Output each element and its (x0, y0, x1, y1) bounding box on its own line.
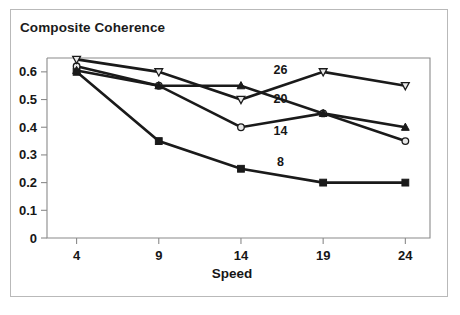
x-tick-label: 19 (316, 248, 330, 263)
data-point-marker (237, 96, 245, 103)
y-axis-tick-labels: 00.10.20.30.40.50.6 (19, 64, 38, 245)
data-point-marker (402, 138, 409, 145)
x-tick-label: 14 (234, 248, 249, 263)
data-point-marker (155, 138, 162, 145)
data-point-marker (238, 124, 245, 131)
series-label-8: 8 (277, 155, 284, 169)
x-tick-label: 24 (398, 248, 413, 263)
x-axis-title: Speed (212, 266, 253, 281)
series-annotations: 8142026 (273, 63, 287, 169)
x-tick-label: 4 (73, 248, 81, 263)
y-tick-label: 0.5 (19, 92, 37, 107)
y-tick-label: 0.6 (19, 64, 37, 79)
series-label-26: 26 (273, 63, 287, 77)
data-point-marker (320, 179, 327, 186)
x-axis-tick-labels: 49141924 (73, 248, 413, 263)
data-point-marker (402, 179, 409, 186)
series-label-14: 14 (273, 124, 287, 138)
y-tick-label: 0.3 (19, 147, 37, 162)
y-tick-label: 0.4 (19, 120, 38, 135)
line-chart-plot: 00.10.20.30.40.50.6 49141924 8142026 Spe… (0, 0, 460, 315)
series-label-20: 20 (273, 92, 287, 106)
data-point-marker (238, 165, 245, 172)
y-tick-label: 0 (30, 231, 37, 246)
y-tick-label: 0.1 (19, 203, 37, 218)
y-tick-label: 0.2 (19, 175, 37, 190)
data-series-group (73, 56, 410, 186)
x-tick-label: 9 (155, 248, 162, 263)
